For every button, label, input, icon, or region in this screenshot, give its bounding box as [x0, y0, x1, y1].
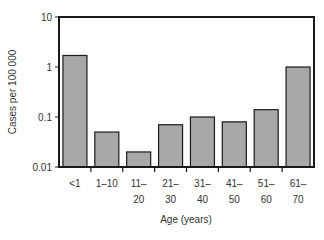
bar	[127, 152, 151, 167]
bars	[63, 55, 310, 167]
y-tick-label: 0.1	[38, 112, 52, 123]
x-tick-label-line2: 60	[261, 194, 273, 205]
x-tick-label: <1	[69, 178, 81, 189]
bar	[63, 55, 87, 167]
x-axis-label: Age (years)	[160, 214, 212, 225]
bar	[286, 67, 310, 167]
x-tick-label: 21–	[162, 178, 179, 189]
bar	[159, 125, 183, 167]
x-tick-label-line2: 70	[293, 194, 305, 205]
y-axis-label: Cases per 100 000	[7, 49, 18, 134]
x-tick-label: 11–	[131, 178, 147, 189]
x-tick-label: 41–	[226, 178, 243, 189]
bar-chart: 1010.10.01 <11–1011–2021–3031–4041–5051–…	[0, 0, 324, 240]
bar	[254, 110, 278, 167]
y-tick-label: 0.01	[33, 162, 53, 173]
x-tick-label: 51–	[258, 178, 275, 189]
x-tick-label: 31–	[194, 178, 211, 189]
x-tick-label-line2: 50	[229, 194, 241, 205]
y-axis-ticks: 1010.10.01	[33, 12, 59, 173]
x-tick-label-line2: 40	[197, 194, 209, 205]
x-tick-label-line2: 20	[133, 194, 145, 205]
y-tick-label: 10	[41, 12, 53, 23]
x-tick-label: 61–	[290, 178, 307, 189]
x-tick-label: 1–10	[96, 178, 119, 189]
bar	[222, 122, 246, 167]
bar	[95, 132, 119, 167]
x-tick-label-line2: 30	[165, 194, 177, 205]
y-tick-label: 1	[46, 62, 52, 73]
bar	[190, 117, 214, 167]
x-axis-ticks: <11–1011–2021–3031–4041–5051–6061–70	[59, 167, 314, 205]
